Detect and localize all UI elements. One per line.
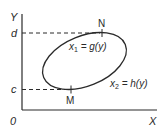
origin-label: 0 [10,115,17,127]
level-c-label: c [11,83,17,95]
point-n-label: N [98,18,105,29]
point-m-label: M [66,95,74,106]
level-d-label: d [11,27,18,39]
curve-right-label: x2 = h(y) [109,78,148,90]
region-diagram: Y X 0 d c N M x1 = g(y) x2 = h(y) [0,0,165,131]
y-axis-label: Y [10,11,18,23]
x-axis-label: X [148,115,157,127]
curve-left-label: x1 = g(y) [68,41,107,53]
